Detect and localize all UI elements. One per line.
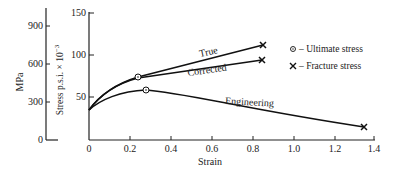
stress-strain-chart: 900 600 300 0 MPa 150 100 50 Stress p.s.… [0,0,393,173]
engineering-label: Engineering [225,95,274,109]
x-tick-0.4: 0.4 [165,143,178,154]
mpa-tick-600: 600 [28,58,43,69]
y-tick-100: 100 [71,49,86,60]
x-tick-1.4: 1.4 [368,143,381,154]
y-axis-label: Stress p.s.i. × 10−3 [53,44,65,115]
corrected-label: Corrected [187,62,228,78]
mpa-axis: 900 600 300 0 MPa [14,8,58,145]
legend-fracture: – Fracture stress [298,61,362,71]
x-tick-1.2: 1.2 [329,143,342,154]
mpa-tick-300: 300 [28,96,43,107]
legend-ultimate: – Ultimate stress [298,44,363,54]
y-tick-50: 50 [76,91,86,102]
x-tick-1.0: 1.0 [288,143,301,154]
legend: – Ultimate stress – Fracture stress [290,44,363,71]
y-tick-150: 150 [71,7,86,18]
fracture-legend-icon [290,63,296,69]
curves [89,45,364,127]
mpa-tick-900: 900 [28,20,43,31]
x-axis-label: Strain [198,156,222,167]
x-tick-0: 0 [87,143,92,154]
markers [135,42,367,130]
mpa-label: MPa [14,72,25,91]
primary-axes: 150 100 50 Stress p.s.i. × 10−3 0 0.2 0.… [53,7,380,167]
x-tick-0.2: 0.2 [124,143,137,154]
x-tick-0.6: 0.6 [206,143,219,154]
mpa-tick-0: 0 [38,134,43,145]
x-tick-0.8: 0.8 [247,143,260,154]
